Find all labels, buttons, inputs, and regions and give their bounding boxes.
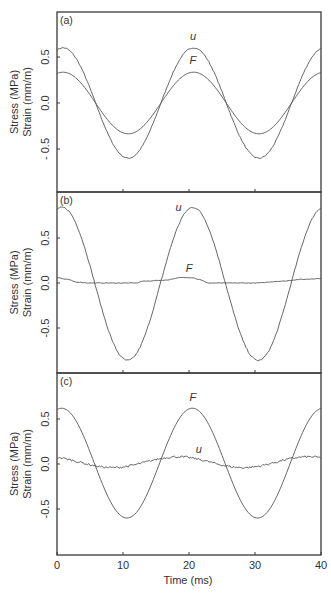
series-u-line: [57, 456, 321, 469]
y-tick-label: - 0.5: [39, 138, 51, 160]
x-tick-label: 10: [117, 559, 129, 571]
series-F-line: [57, 72, 321, 134]
x-tick-label: 40: [315, 559, 327, 571]
y-axis-title-stress: Stress (MPa): [8, 432, 20, 496]
series-u-label: u: [190, 30, 196, 42]
panel-label: (b): [60, 194, 73, 206]
x-axis: 010203040: [54, 559, 327, 571]
y-tick-label: 0.0: [39, 275, 51, 290]
series-F-line: [57, 277, 321, 283]
y-axis-title-stress: Stress (MPa): [8, 250, 20, 314]
series-F-label: F: [186, 262, 194, 274]
x-tick-label: 0: [54, 559, 60, 571]
panel-label: (c): [60, 375, 72, 387]
stress-strain-figure: 0.50.0- 0.5(a)Stress (MPa)Strain (mm/m)u…: [0, 0, 331, 595]
x-axis-title: Time (ms): [163, 574, 212, 586]
y-tick-label: 0.0: [39, 95, 51, 110]
panel-label: (a): [60, 14, 73, 26]
series-u-label: u: [175, 201, 181, 213]
y-tick-label: -0.5: [39, 319, 51, 338]
y-axis-title-strain: Strain (mm/m): [21, 67, 33, 137]
y-tick-label: 0.0: [39, 456, 51, 471]
x-tick-label: 30: [249, 559, 261, 571]
y-axis-title-stress: Stress (MPa): [8, 70, 20, 134]
y-tick-label: 0.5: [39, 230, 51, 245]
series-F-line: [57, 408, 321, 518]
panels-group: 0.50.0- 0.5(a)Stress (MPa)Strain (mm/m)u…: [8, 12, 321, 555]
series-u-label: u: [196, 443, 202, 455]
y-tick-label: -0.5: [39, 500, 51, 519]
series-u-line: [57, 207, 321, 361]
series-F-label: F: [190, 54, 198, 66]
y-axis-title-strain: Strain (mm/m): [21, 429, 33, 499]
y-tick-label: 0.5: [39, 411, 51, 426]
panel-a: 0.50.0- 0.5(a)Stress (MPa)Strain (mm/m)u…: [8, 12, 321, 192]
y-axis-title-strain: Strain (mm/m): [21, 248, 33, 318]
y-tick-label: 0.5: [39, 49, 51, 64]
x-tick-label: 20: [183, 559, 195, 571]
panel-b: 0.50.0-0.5(b)Stress (MPa)Strain (mm/m)uF: [8, 192, 321, 373]
panel-c: 0.50.0-0.5(c)Stress (MPa)Strain (mm/m)Fu: [8, 373, 321, 555]
series-F-label: F: [190, 391, 198, 403]
